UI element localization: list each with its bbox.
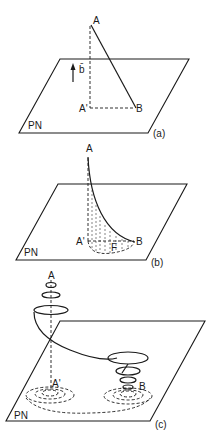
point-label-a: A xyxy=(48,270,55,281)
figure-canvas: b̄ A A' B PN (a) A A' B F PN ( xyxy=(0,0,218,441)
plane-a xyxy=(19,59,189,133)
plane-label-pn: PN xyxy=(14,410,28,421)
point-label-aprime: A' xyxy=(52,378,61,389)
panel-a: b̄ A A' B PN (a) xyxy=(19,15,189,139)
point-label-b: B xyxy=(136,103,143,114)
vector-label-b: b̄ xyxy=(79,63,85,75)
panel-c: A A' B PN (c) xyxy=(6,270,205,430)
plane-label-pn: PN xyxy=(24,247,38,258)
panel-caption-c: (c) xyxy=(155,419,167,430)
panel-b: A A' B F PN (b) xyxy=(16,143,187,268)
contour-ellipses-aprime xyxy=(26,387,74,403)
point-label-b: B xyxy=(136,236,143,247)
curve-a-b xyxy=(88,157,135,242)
plane-b xyxy=(16,184,187,260)
hatch-area xyxy=(92,190,128,253)
point-label-b: B xyxy=(139,381,146,392)
plane-label-pn: PN xyxy=(28,120,42,131)
line-a-b xyxy=(91,25,136,108)
point-label-aprime: A' xyxy=(79,103,88,114)
arrow-up-icon xyxy=(71,63,76,82)
helix-sweep xyxy=(34,312,117,359)
point-label-aprime: A' xyxy=(76,236,85,247)
helix-top xyxy=(34,283,68,315)
point-label-a: A xyxy=(86,143,93,154)
projection-path-c xyxy=(26,398,150,413)
point-label-a: A xyxy=(93,15,100,26)
panel-caption-a: (a) xyxy=(153,128,165,139)
area-label-f: F xyxy=(111,242,117,253)
panel-caption-b: (b) xyxy=(151,257,163,268)
